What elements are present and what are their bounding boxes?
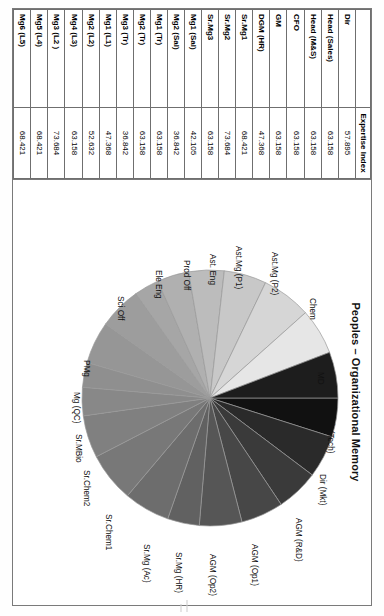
pie-slice-label: MD <box>316 372 324 385</box>
table-cell-role: Mg1 (Tr) <box>150 10 167 108</box>
pie-slice-label: Prod Off <box>182 260 190 290</box>
pie-slice-label: AGM (Op1) <box>250 544 258 586</box>
page-content: Expertise Index Dir57.895Head (Sales)63.… <box>0 0 384 616</box>
table-cell-role: GM <box>270 10 287 108</box>
table-header-row: Expertise Index <box>355 10 370 179</box>
pie-chart-panel: Peoples – Organizational Memory MDDir (T… <box>14 180 370 604</box>
pie-slice-label: Ast.Mg (P2) <box>270 252 278 295</box>
table-row: CFO63.158 <box>287 10 304 179</box>
table-row: Head (M&S)63.158 <box>304 10 321 179</box>
pie-slice-label: Sr.MBio <box>74 434 82 463</box>
table-cell-role: Mg3 (Tr) <box>116 10 133 108</box>
table-cell-expertise-index: 47.368 <box>253 108 270 179</box>
table-row: Mg3 (L2 )73.684 <box>48 10 65 179</box>
pie-slice-label: Ast.Mg (P1) <box>234 246 242 289</box>
table-row: Dir57.895 <box>338 10 355 179</box>
table-cell-expertise-index: 68.421 <box>236 108 253 179</box>
table-row: Mg1 (L1)47.368 <box>99 10 116 179</box>
table-row: Mg3 (Tr)36.842 <box>116 10 133 179</box>
table-cell-role: Mg2 (Sal) <box>167 10 184 108</box>
table-cell-expertise-index: 73.684 <box>48 108 65 179</box>
table-cell-role: Mg1 (L1) <box>99 10 116 108</box>
table-row: GM63.158 <box>270 10 287 179</box>
table-row: Sr.Mg363.158 <box>202 10 219 179</box>
scan-artifact <box>187 600 189 612</box>
table-cell-role: Mg5 (L4) <box>31 10 48 108</box>
table-header-expertise-index: Expertise Index <box>355 108 370 179</box>
pie-slice-label: Sci Off <box>116 296 124 320</box>
table-cell-expertise-index: 68.421 <box>31 108 48 179</box>
pie-slice-label: Ast. Eng <box>208 254 216 285</box>
pie-slice-label: Sr.Mg (Ac) <box>142 544 150 583</box>
table-cell-role: Mg2 (L2) <box>82 10 99 108</box>
table-cell-expertise-index: 63.158 <box>304 108 321 179</box>
table-row: Sr.Mg273.684 <box>219 10 236 179</box>
expertise-index-table: Expertise Index Dir57.895Head (Sales)63.… <box>13 9 371 179</box>
table-cell-role: DGM (HR) <box>253 10 270 108</box>
chart-title: Peoples – Organizational Memory <box>350 180 362 604</box>
table-cell-expertise-index: 63.158 <box>133 108 150 179</box>
table-row: Head (Sales)63.158 <box>321 10 338 179</box>
pie-slice-label: Mg (QC) <box>72 392 80 423</box>
table-cell-expertise-index: 63.158 <box>202 108 219 179</box>
table-cell-role: Sr.Mg3 <box>202 10 219 108</box>
table-row: DGM (HR)47.368 <box>253 10 270 179</box>
table-cell-expertise-index: 73.684 <box>219 108 236 179</box>
table-cell-expertise-index: 63.158 <box>287 108 304 179</box>
table-row: Mg4 (L3)63.158 <box>65 10 82 179</box>
table-cell-expertise-index: 68.421 <box>14 108 31 179</box>
table-cell-expertise-index: 47.368 <box>99 108 116 179</box>
table-row: Mg2 (Sal)36.842 <box>167 10 184 179</box>
pie-slice-label: Dir (Mkt) <box>318 474 326 505</box>
scan-artifact <box>181 604 183 612</box>
pie-slice-label: Dir (Tech) <box>326 418 334 453</box>
table-cell-expertise-index: 36.842 <box>167 108 184 179</box>
table-header-role <box>355 10 370 108</box>
table-cell-role: Mg2 (Tr) <box>133 10 150 108</box>
table-row: Sr.Mg168.421 <box>236 10 253 179</box>
table-row: Mg1 (Sal)42.105 <box>185 10 202 179</box>
table-row: Mg1 (Tr)63.158 <box>150 10 167 179</box>
table-cell-role: Dir <box>338 10 355 108</box>
table-cell-role: Mg1 (Sal) <box>185 10 202 108</box>
table-cell-expertise-index: 57.895 <box>338 108 355 179</box>
pie-slice-label: PMg <box>82 360 90 377</box>
pie-slice-label: Chem <box>308 298 316 320</box>
pie-slice-label: Sr.Chem1 <box>104 514 112 550</box>
table-cell-role: Mg4 (L3) <box>65 10 82 108</box>
table-cell-expertise-index: 36.842 <box>116 108 133 179</box>
table-cell-expertise-index: 42.105 <box>185 108 202 179</box>
table-cell-role: Head (M&S) <box>304 10 321 108</box>
table-cell-role: Mg3 (L2 ) <box>48 10 65 108</box>
table-row: Mg2 (L2)52.632 <box>82 10 99 179</box>
table-cell-role: Sr.Mg2 <box>219 10 236 108</box>
expertise-index-table-panel: Expertise Index Dir57.895Head (Sales)63.… <box>13 9 371 180</box>
table-cell-expertise-index: 63.158 <box>65 108 82 179</box>
table-cell-expertise-index: 63.158 <box>321 108 338 179</box>
table-cell-expertise-index: 52.632 <box>82 108 99 179</box>
table-cell-expertise-index: 63.158 <box>270 108 287 179</box>
table-cell-expertise-index: 63.158 <box>150 108 167 179</box>
pie-slice-label: Sr.Mg (HR) <box>174 552 182 593</box>
pie-slice-label: AGM (R&D) <box>294 518 302 562</box>
scanned-page: Expertise Index Dir57.895Head (Sales)63.… <box>0 0 384 616</box>
pie-slice-label: Sr.Chem2 <box>82 470 90 506</box>
table-row: Mg5 (L4)68.421 <box>31 10 48 179</box>
pie-slice-label: AGM (Op2) <box>208 554 216 596</box>
table-row: Mg2 (Tr)63.158 <box>133 10 150 179</box>
table-cell-role: Mg6 (L5) <box>14 10 31 108</box>
table-row: Mg6 (L5)68.421 <box>14 10 31 179</box>
pie-slice-label: Ele Eng <box>154 270 162 299</box>
table-body: Dir57.895Head (Sales)63.158Head (M&S)63.… <box>14 10 356 179</box>
table-cell-role: CFO <box>287 10 304 108</box>
table-cell-role: Head (Sales) <box>321 10 338 108</box>
table-cell-role: Sr.Mg1 <box>236 10 253 108</box>
pie-chart: MDDir (Tech)Dir (Mkt)AGM (R&D)AGM (Op1)A… <box>80 268 340 528</box>
